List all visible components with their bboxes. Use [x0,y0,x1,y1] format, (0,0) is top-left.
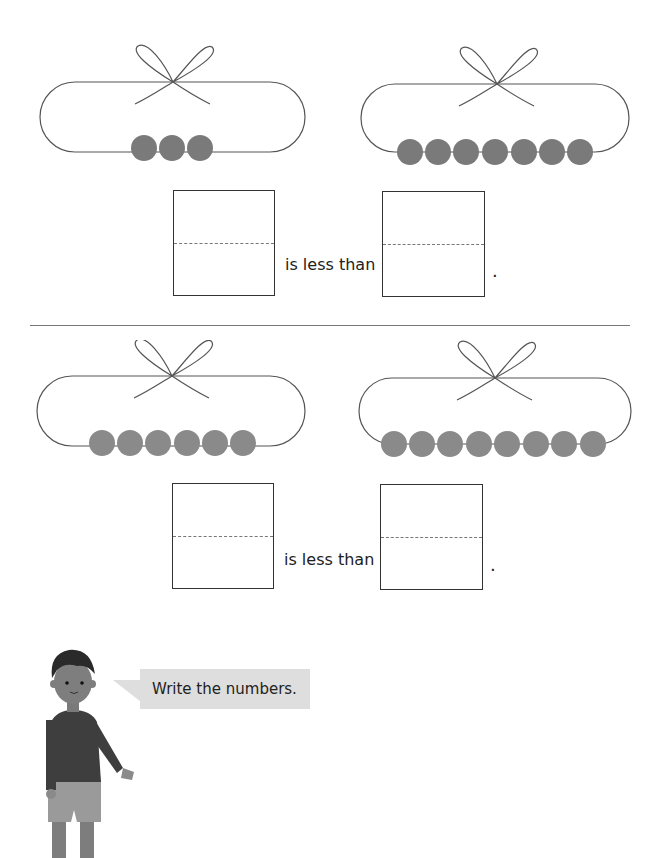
section-divider [30,325,630,326]
writing-guide-line [173,536,273,537]
bow-icon [457,341,536,400]
boy-character-icon [35,640,145,858]
bow-icon [135,45,214,104]
bow-icon [459,47,538,106]
beads [89,430,256,456]
answer-box-left-2[interactable] [172,483,274,589]
comparison-phrase: is less than [285,255,375,274]
beads [397,139,593,165]
instruction-text: Write the numbers. [152,680,297,698]
answer-box-right-1[interactable] [382,191,485,297]
speech-bubble-tail [113,680,141,702]
beads [131,135,213,161]
writing-guide-line [174,243,274,244]
bead-string-right-2 [350,340,640,470]
answer-box-right-2[interactable] [380,484,483,590]
bead-string-right-1 [350,40,640,170]
period: . [490,554,496,575]
bead-string-left-2 [30,340,310,470]
period: . [492,260,498,281]
answer-box-left-1[interactable] [173,190,275,296]
writing-guide-line [383,244,484,245]
bow-icon [134,340,213,398]
comparison-phrase: is less than [284,550,374,569]
writing-guide-line [381,537,482,538]
bead-string-left-1 [30,40,310,170]
